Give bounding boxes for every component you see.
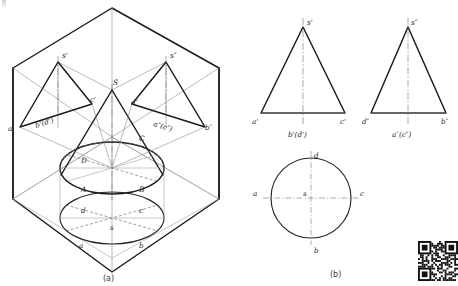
label-front-left: a' bbox=[8, 124, 14, 133]
panel-a-labels: S s' s″ a' b'(d') c' d″ a″(c″) b″ D C A … bbox=[8, 51, 213, 250]
label-sv-base-right: b″ bbox=[441, 117, 449, 126]
label-apex-side: s″ bbox=[170, 51, 177, 60]
label-tv-top: d bbox=[314, 151, 319, 160]
label-front-center: b'(d') bbox=[34, 115, 55, 129]
caption-a: (a) bbox=[103, 274, 114, 283]
label-tv-right: c bbox=[360, 189, 364, 198]
top-view-labels: d b a c s bbox=[253, 151, 364, 255]
projection-box-hexagon bbox=[13, 8, 219, 272]
label-space-D: D bbox=[80, 156, 87, 165]
label-apex-space: S bbox=[113, 78, 118, 87]
panel-a-drawing: S s' s″ a' b'(d') c' d″ a″(c″) b″ D C A … bbox=[0, 0, 458, 286]
label-side-right: b″ bbox=[205, 123, 213, 132]
label-top-s: s bbox=[110, 223, 114, 232]
box-fold-lines bbox=[13, 8, 219, 272]
label-space-A: A bbox=[80, 185, 86, 194]
label-front-right: c' bbox=[90, 95, 96, 104]
side-projection-cone bbox=[132, 56, 205, 127]
top-view bbox=[263, 151, 359, 245]
alignment-lines bbox=[20, 104, 205, 168]
label-sv-apex: s″ bbox=[411, 18, 418, 27]
front-view bbox=[261, 18, 345, 124]
label-space-C: C bbox=[139, 134, 145, 143]
label-top-d: d bbox=[81, 206, 86, 215]
label-tv-bottom: b bbox=[314, 246, 319, 255]
label-tv-left: a bbox=[253, 189, 257, 198]
front-projection-cone bbox=[20, 56, 92, 127]
side-view bbox=[371, 18, 446, 124]
label-fv-base-left: a' bbox=[252, 117, 258, 126]
label-side-center: a″(c″) bbox=[152, 119, 173, 133]
label-top-b: b bbox=[139, 241, 144, 250]
label-sv-base-center: a″(c″) bbox=[392, 130, 411, 139]
label-fv-base-center: b'(d') bbox=[288, 130, 307, 139]
figure-root: S s' s″ a' b'(d') c' d″ a″(c″) b″ D C A … bbox=[0, 0, 458, 286]
label-side-left: d″ bbox=[131, 98, 139, 107]
label-fv-base-right: c' bbox=[340, 117, 346, 126]
label-sv-base-left: d″ bbox=[362, 117, 370, 126]
label-tv-center: s bbox=[303, 189, 307, 198]
caption-b: (b) bbox=[330, 270, 341, 279]
label-fv-apex: s' bbox=[307, 18, 313, 27]
label-space-B: B bbox=[138, 185, 145, 194]
qr-code[interactable] bbox=[418, 240, 458, 282]
label-apex-front: s' bbox=[62, 51, 68, 60]
side-view-labels: s″ d″ b″ a″(c″) bbox=[362, 18, 449, 139]
label-top-a: a bbox=[79, 241, 83, 250]
label-top-c: c bbox=[139, 206, 143, 215]
